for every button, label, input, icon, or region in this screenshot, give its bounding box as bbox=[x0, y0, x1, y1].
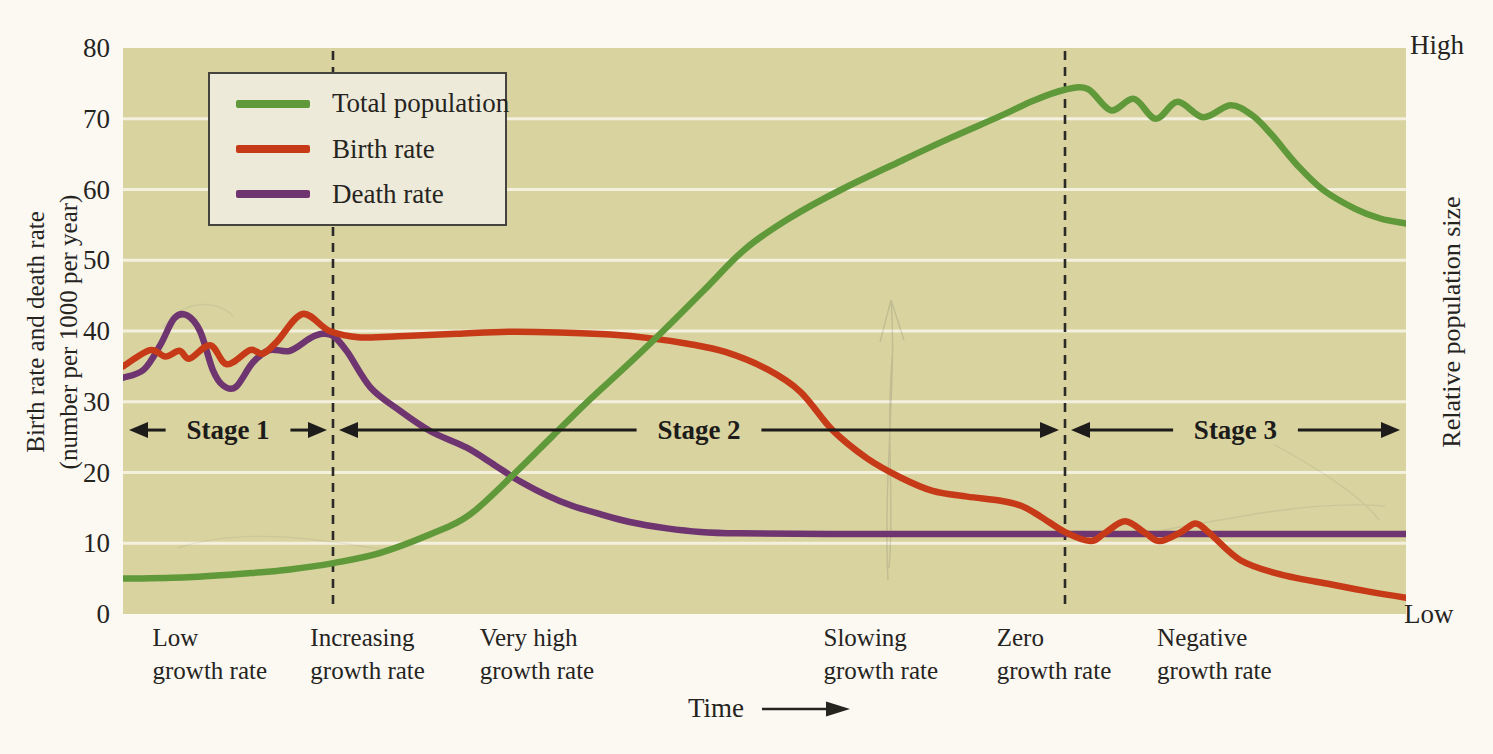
time-axis-label: Time bbox=[688, 693, 744, 724]
stage-label: Stage 2 bbox=[657, 415, 740, 445]
legend: Total populationBirth rateDeath rate bbox=[208, 72, 507, 226]
stage-arrow: Stage 1 bbox=[129, 415, 327, 445]
legend-label: Birth rate bbox=[332, 134, 435, 165]
right-axis-low-label: Low bbox=[1404, 599, 1454, 630]
legend-swatch bbox=[236, 100, 310, 108]
phase-label: Very highgrowth rate bbox=[480, 622, 595, 687]
pencil-artifact bbox=[880, 300, 904, 580]
stage-arrow: Stage 3 bbox=[1071, 415, 1400, 445]
demographic-transition-figure: 01020304050607080 Birth rate and death r… bbox=[0, 0, 1493, 754]
legend-label: Death rate bbox=[332, 179, 444, 210]
left-axis-title: Birth rate and death rate (number per 10… bbox=[20, 195, 85, 470]
phase-label: Increasinggrowth rate bbox=[310, 622, 425, 687]
legend-swatch bbox=[236, 190, 310, 198]
stage-label: Stage 3 bbox=[1194, 415, 1277, 445]
y-tick-label: 80 bbox=[0, 32, 110, 64]
y-tick-label: 10 bbox=[0, 527, 110, 559]
left-axis-title-line1: Birth rate and death rate bbox=[20, 195, 53, 470]
series-birth-rate bbox=[123, 314, 1406, 598]
legend-item: Death rate bbox=[236, 179, 505, 210]
legend-label: Total population bbox=[332, 88, 509, 119]
legend-item: Total population bbox=[236, 88, 505, 119]
stage-label: Stage 1 bbox=[186, 415, 269, 445]
legend-swatch bbox=[236, 145, 310, 153]
plot-area: Stage 1Stage 2Stage 3 Total populationBi… bbox=[123, 48, 1406, 614]
phase-label: Slowinggrowth rate bbox=[824, 622, 939, 687]
time-arrow-icon bbox=[760, 700, 852, 718]
time-axis: Time bbox=[688, 693, 852, 724]
pencil-artifact bbox=[1163, 444, 1385, 530]
right-axis-title: Relative population size bbox=[1437, 196, 1467, 447]
y-tick-label: 70 bbox=[0, 103, 110, 135]
phase-label: Lowgrowth rate bbox=[153, 622, 268, 687]
phase-label: Zerogrowth rate bbox=[997, 622, 1112, 687]
left-axis-title-line2: (number per 1000 per year) bbox=[52, 195, 85, 470]
legend-item: Birth rate bbox=[236, 134, 505, 165]
y-tick-label: 0 bbox=[0, 598, 110, 630]
right-axis-high-label: High bbox=[1410, 30, 1464, 61]
phase-label: Negativegrowth rate bbox=[1157, 622, 1272, 687]
